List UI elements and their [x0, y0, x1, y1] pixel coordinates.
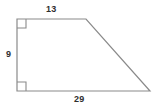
- geometry-figure: 13 9 29: [0, 0, 164, 108]
- left-side-length-label: 9: [6, 50, 11, 59]
- bottom-left-right-angle-marker: [17, 82, 26, 91]
- trapezoid-outline: [17, 19, 150, 91]
- top-side-length-label: 13: [46, 5, 56, 14]
- top-left-right-angle-marker: [17, 19, 26, 28]
- bottom-side-length-label: 29: [74, 95, 84, 104]
- trapezoid-svg: [0, 0, 164, 108]
